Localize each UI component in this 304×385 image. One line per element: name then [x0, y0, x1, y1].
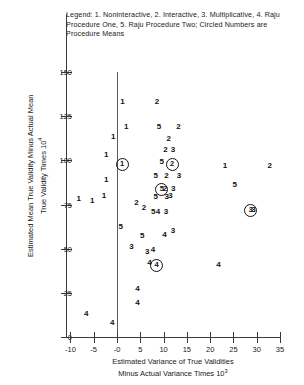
y-tick-label: 25: [46, 289, 72, 298]
data-point-mean: 1: [116, 158, 129, 171]
y-tick-label: 50: [46, 245, 72, 254]
data-point: 4: [148, 245, 158, 255]
data-point: 4: [132, 298, 142, 308]
x-tick-label: 35: [268, 345, 292, 354]
data-point: 3: [168, 145, 178, 155]
x-tick-mark: [70, 332, 71, 343]
x-axis-title: Estimated Variance of True Validities Mi…: [66, 357, 280, 379]
data-point: 5: [116, 222, 126, 232]
x-tick-mark: [187, 332, 188, 343]
data-point: 1: [101, 175, 111, 185]
x-tick-mark: [257, 332, 258, 343]
data-point: 1: [87, 196, 97, 206]
x-tick-mark: [210, 332, 211, 343]
x-tick-label: -10: [58, 345, 82, 354]
x-tick-mark: [117, 332, 118, 343]
y-tick-label: 100: [46, 156, 72, 165]
data-point: 3: [174, 171, 184, 181]
x-axis-title-line2: Minus Actual Variance Times 103: [118, 369, 227, 378]
data-point: 5: [137, 231, 147, 241]
data-point: 1: [74, 194, 84, 204]
data-point: 3: [161, 207, 171, 217]
zero-reference-line: [117, 72, 118, 337]
data-point: 1: [220, 161, 230, 171]
data-point: 5: [151, 171, 161, 181]
x-tick-label: 20: [198, 345, 222, 354]
data-point: 1: [101, 150, 111, 160]
data-point: 4: [81, 309, 91, 319]
y-tick-label: 125: [46, 112, 72, 121]
x-tick-mark: [164, 332, 165, 343]
y-tick-label: 150: [46, 68, 72, 77]
data-point: 1: [121, 122, 131, 132]
data-point: 2: [164, 134, 174, 144]
data-point: 4: [214, 260, 224, 270]
data-point-mean: 2: [166, 158, 179, 171]
data-point: 2: [265, 161, 275, 171]
data-point: 5: [151, 192, 161, 202]
data-point: 3: [168, 226, 178, 236]
y-axis-title-line1: Estimated Mean True Validity Minus Actua…: [26, 95, 35, 257]
x-tick-label: 15: [175, 345, 199, 354]
data-point: 5: [154, 122, 164, 132]
x-tick-label: 5: [128, 345, 152, 354]
data-point: 2: [173, 122, 183, 132]
x-tick-label: 10: [152, 345, 176, 354]
x-tick-label: -0: [105, 345, 129, 354]
data-point: 3: [126, 242, 136, 252]
data-point: 5: [230, 180, 240, 190]
x-tick-mark: [140, 332, 141, 343]
x-tick-mark: [233, 332, 234, 343]
plot-area: 0255075100125150 -10-5-05101520253035 12…: [0, 0, 304, 385]
y-axis-title-line2: True Validity Times 104: [36, 71, 48, 281]
x-tick-mark: [94, 332, 95, 343]
x-tick-mark: [280, 332, 281, 343]
data-point: 1: [108, 132, 118, 142]
x-axis-line: [66, 337, 280, 338]
x-tick-label: 30: [245, 345, 269, 354]
data-point-mean: 4: [150, 259, 163, 272]
scatter-plot-figure: Legend: 1. Noninteractive, 2. Interactiv…: [0, 0, 304, 385]
x-axis-title-line1: Estimated Variance of True Validities: [112, 357, 233, 366]
data-point: 3: [166, 191, 176, 201]
x-tick-label: -5: [82, 345, 106, 354]
data-point: 1: [99, 191, 109, 201]
data-point: 2: [152, 97, 162, 107]
y-tick-label: 0: [46, 333, 72, 342]
x-tick-label: 25: [221, 345, 245, 354]
data-point: 1: [118, 97, 128, 107]
data-point: 4: [132, 284, 142, 294]
y-tick-label: 75: [46, 201, 72, 210]
data-point: 3: [248, 205, 258, 215]
y-axis-title: Estimated Mean True Validity Minus Actua…: [26, 71, 48, 281]
data-point: 4: [107, 318, 117, 328]
data-point: 2: [161, 171, 171, 181]
